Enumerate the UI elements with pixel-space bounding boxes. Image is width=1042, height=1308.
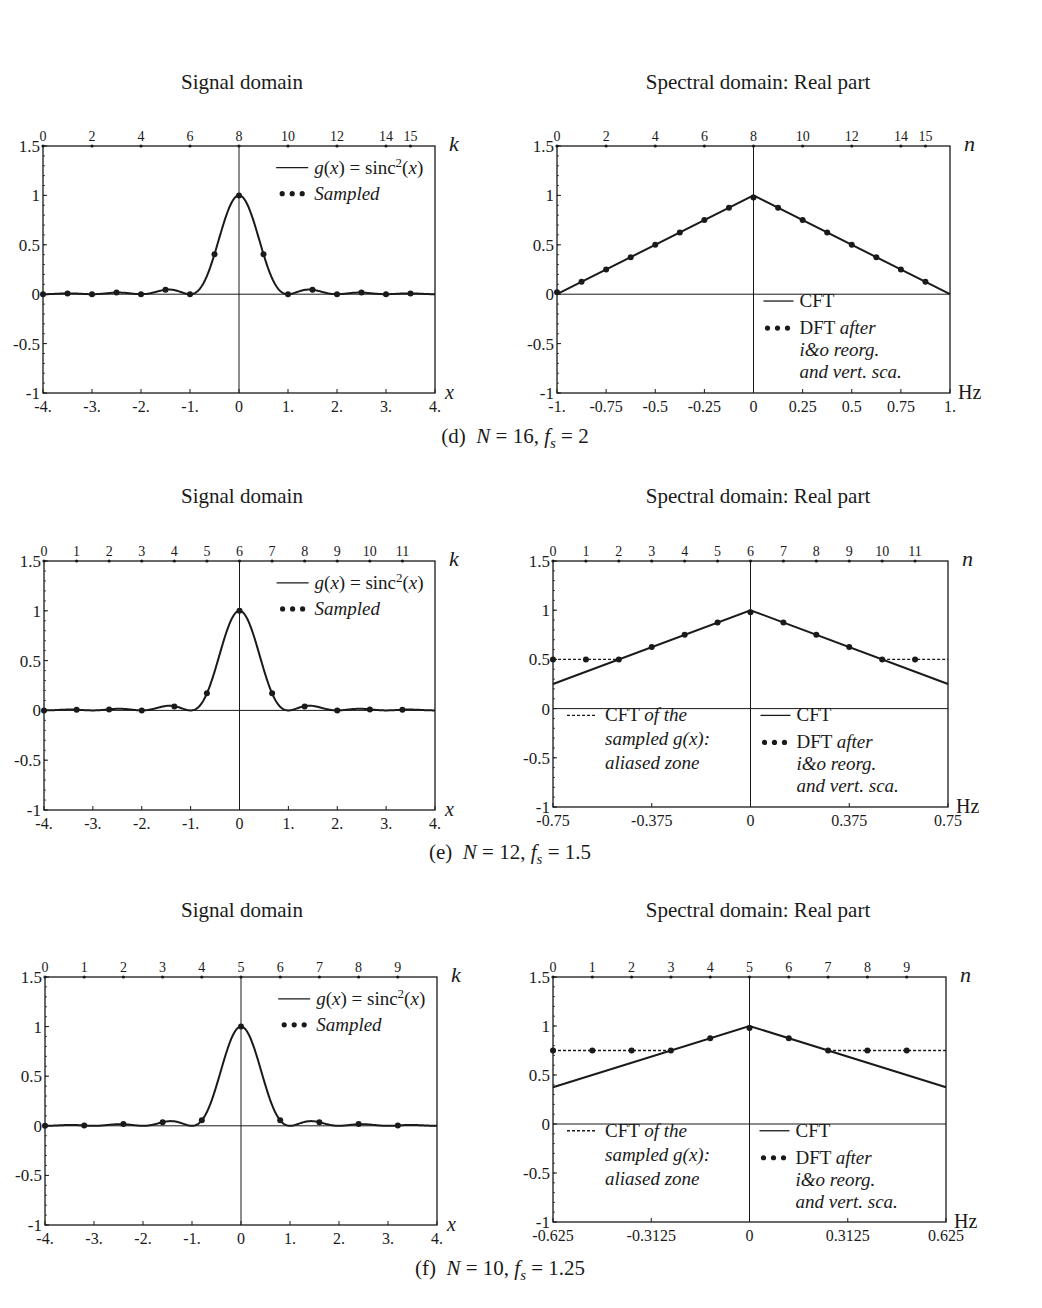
x-tick-label: 0.5 xyxy=(842,398,862,415)
legend-dots-icon xyxy=(300,606,305,611)
x-tick-label: 3. xyxy=(380,398,392,415)
top-index-label: 5 xyxy=(714,544,721,559)
x-tick-label: 1. xyxy=(282,398,294,415)
top-index-label: 4 xyxy=(138,129,145,144)
top-index-label: 2 xyxy=(106,544,113,559)
top-index-label: 3 xyxy=(159,960,166,975)
sample-dot xyxy=(846,644,852,650)
x-tick-label: -0.25 xyxy=(688,398,721,415)
top-axis-label: k xyxy=(449,546,460,571)
x-tick-label: -0.5 xyxy=(643,398,668,415)
x-tick-label: -4. xyxy=(34,398,51,415)
plot-legend: CFTDFT afteri&o reorg.and vert. sca. xyxy=(764,290,902,382)
top-index-label: 6 xyxy=(236,544,243,559)
y-tick-label: 1 xyxy=(542,1017,551,1036)
sample-dot xyxy=(74,707,80,713)
sample-dot xyxy=(554,289,560,295)
y-tick-label: 0.5 xyxy=(533,236,554,255)
top-index-label: 4 xyxy=(681,544,688,559)
top-index-label: 8 xyxy=(236,129,243,144)
x-tick-label: 0 xyxy=(236,815,244,832)
top-index-label: 3 xyxy=(138,544,145,559)
top-index-label: 4 xyxy=(171,544,178,559)
x-tick-label: -3. xyxy=(84,815,101,832)
sample-dot xyxy=(873,254,879,260)
x-tick-label: -0.3125 xyxy=(627,1227,676,1244)
sample-dot xyxy=(879,656,885,662)
x-tick-label: 4. xyxy=(429,398,441,415)
top-index-label: 7 xyxy=(269,544,276,559)
plot-legend: g(x) = sinc2(x)Sampled xyxy=(277,570,424,619)
sample-dot xyxy=(238,1024,244,1030)
y-tick-label: 0.5 xyxy=(529,1066,550,1085)
legend-signal-label: g(x) = sinc2(x) xyxy=(315,570,424,594)
legend-alias-label: CFT of the xyxy=(605,1120,687,1141)
sample-dot xyxy=(285,291,291,297)
y-tick-label: 0 xyxy=(33,701,42,720)
top-index-label: 6 xyxy=(701,129,708,144)
y-tick-label: 0.5 xyxy=(21,1067,42,1086)
x-tick-label: -1. xyxy=(181,398,198,415)
sample-dot xyxy=(204,690,210,696)
legend-signal-label: g(x) = sinc2(x) xyxy=(314,155,423,179)
y-tick-label: -0.5 xyxy=(15,1166,42,1185)
top-index-label: 0 xyxy=(42,960,49,975)
sample-dot xyxy=(603,267,609,273)
x-tick-label: 0 xyxy=(747,812,755,829)
top-index-label: 2 xyxy=(603,129,610,144)
legend-cft-label: CFT xyxy=(797,704,832,725)
y-tick-label: -0.5 xyxy=(523,1164,550,1183)
legend-dots-icon xyxy=(785,325,790,330)
x-tick-label: 0.25 xyxy=(789,398,817,415)
top-index-label: 6 xyxy=(785,960,792,975)
x-tick-label: -3. xyxy=(85,1230,102,1247)
x-tick-label: 0.75 xyxy=(887,398,915,415)
x-tick-label: 1. xyxy=(944,398,956,415)
top-index-label: 6 xyxy=(277,960,284,975)
x-tick-label: 0 xyxy=(746,1227,754,1244)
y-tick-label: -0.5 xyxy=(527,335,554,354)
y-tick-label: 1.5 xyxy=(19,137,40,156)
plot-legend: g(x) = sinc2(x)Sampled xyxy=(278,986,425,1035)
legend-alias-label-line3: aliased zone xyxy=(605,752,699,773)
sample-dot xyxy=(701,217,707,223)
x-tick-label: 2. xyxy=(331,398,343,415)
sample-dot xyxy=(775,205,781,211)
sample-dot xyxy=(383,291,389,297)
sample-dot xyxy=(668,1048,674,1054)
legend-dots-icon xyxy=(290,191,295,196)
legend-sampled-label: Sampled xyxy=(315,598,381,619)
legend-alias-label-line2: sampled g(x): xyxy=(605,1144,710,1166)
top-index-label: 1 xyxy=(73,544,80,559)
top-index-label: 8 xyxy=(301,544,308,559)
top-index-label: 8 xyxy=(813,544,820,559)
sample-dot xyxy=(864,1048,870,1054)
y-tick-label: 0.5 xyxy=(529,650,550,669)
sample-dot xyxy=(922,279,928,285)
x-tick-label: -0.625 xyxy=(532,1227,573,1244)
top-index-label: 9 xyxy=(394,960,401,975)
sample-dot xyxy=(40,291,46,297)
top-index-label: 8 xyxy=(864,960,871,975)
top-index-label: 15 xyxy=(918,129,932,144)
legend-cft-label: CFT xyxy=(796,1120,831,1141)
top-index-label: 2 xyxy=(615,544,622,559)
sample-dot xyxy=(114,290,120,296)
x-axis-label: x xyxy=(446,1213,456,1235)
sample-dot xyxy=(261,251,267,257)
x-tick-label: -4. xyxy=(35,815,52,832)
legend-dft-label-line2: i&o reorg. xyxy=(796,1169,876,1190)
sample-dot xyxy=(715,620,721,626)
sample-dot xyxy=(212,251,218,257)
x-axis-label: x xyxy=(444,798,454,820)
x-tick-label: 1. xyxy=(282,815,294,832)
y-tick-label: 0 xyxy=(34,1117,43,1136)
legend-dots-icon xyxy=(781,1155,786,1160)
top-index-label: 12 xyxy=(330,129,344,144)
legend-dft-label-line2: i&o reorg. xyxy=(800,339,880,360)
top-index-label: 0 xyxy=(554,129,561,144)
top-index-label: 9 xyxy=(903,960,910,975)
legend-dft-label: DFT after xyxy=(796,1147,873,1168)
x-tick-label: 3. xyxy=(380,815,392,832)
top-index-label: 10 xyxy=(875,544,889,559)
